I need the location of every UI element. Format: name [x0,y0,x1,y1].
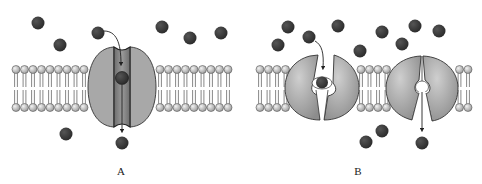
lipid-bilayer-right [156,66,232,112]
panel-label-a: A [117,165,125,177]
lipid-bilayer-b-left [256,66,290,112]
membrane-transport-diagram: A [0,0,482,184]
panel-b: B [256,20,472,178]
lipid-bilayer-left [12,66,88,112]
lipid-bilayer-b-middle [357,66,391,112]
panel-label-b: B [354,165,361,177]
carrier-protein-open-outside [285,55,359,120]
panel-a: A [12,17,232,178]
